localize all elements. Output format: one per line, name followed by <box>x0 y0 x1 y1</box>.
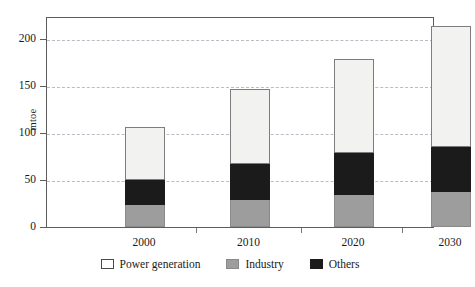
bar-segment-power <box>125 127 165 180</box>
y-tick-mark <box>40 227 46 228</box>
bar-segment-industry <box>230 199 270 227</box>
y-tick-label: 50 <box>0 174 36 186</box>
y-tick-mark <box>40 39 46 40</box>
y-tick-mark <box>40 133 46 134</box>
bar-segment-industry <box>431 191 471 227</box>
bar-2030 <box>431 17 471 227</box>
bar-segment-others <box>334 152 374 195</box>
bar-2020 <box>334 17 374 227</box>
y-tick-label: 0 <box>0 221 36 233</box>
bar-2010 <box>230 17 270 227</box>
bar-segment-power <box>334 59 374 152</box>
bar-segment-others <box>125 179 165 205</box>
y-tick-label: 150 <box>0 80 36 92</box>
legend-item-power[interactable]: Power generation <box>101 258 201 270</box>
legend-label: Industry <box>245 258 283 270</box>
legend-item-others[interactable]: Others <box>310 258 360 270</box>
bar-2000 <box>125 17 165 227</box>
bar-segment-others <box>230 163 270 200</box>
bar-segment-industry <box>334 194 374 227</box>
y-tick-label: 100 <box>0 127 36 139</box>
y-tick-label: 200 <box>0 33 36 45</box>
y-axis-title: mtoe <box>27 90 38 150</box>
chart-legend: Power generationIndustryOthers <box>0 258 460 270</box>
x-tick-label: 2010 <box>219 236 279 248</box>
x-tick-label: 2030 <box>420 236 475 248</box>
x-tick-mark <box>196 228 197 233</box>
power-swatch-icon <box>101 259 114 269</box>
legend-label: Power generation <box>120 258 201 270</box>
x-tick-label: 2000 <box>114 236 174 248</box>
legend-label: Others <box>329 258 360 270</box>
x-tick-mark <box>402 228 403 233</box>
industry-swatch-icon <box>226 259 239 269</box>
legend-item-industry[interactable]: Industry <box>226 258 283 270</box>
bar-segment-power <box>230 89 270 164</box>
y-tick-mark <box>40 86 46 87</box>
others-swatch-icon <box>310 259 323 269</box>
bar-segment-others <box>431 146 471 192</box>
bar-segment-power <box>431 26 471 147</box>
bar-segment-industry <box>125 204 165 227</box>
x-tick-label: 2020 <box>323 236 383 248</box>
y-tick-mark <box>40 180 46 181</box>
plot-area <box>46 17 434 228</box>
x-tick-mark <box>301 228 302 233</box>
